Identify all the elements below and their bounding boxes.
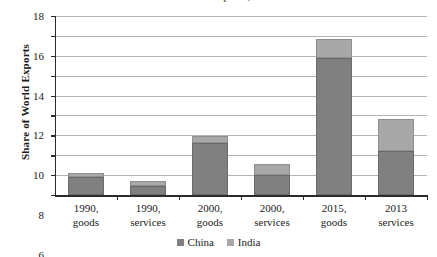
legend-item-india[interactable]: India — [227, 236, 261, 248]
chart-figure: Share of World Exports, 1990-2015 Share … — [0, 0, 437, 257]
x-tick-label: 1990, services — [117, 202, 179, 229]
bar-segment-india[interactable] — [378, 119, 414, 151]
x-tick-label: 1990, goods — [55, 202, 117, 229]
x-tick-mark — [303, 195, 304, 200]
bar-stack[interactable] — [68, 173, 104, 195]
x-tick-mark — [365, 195, 366, 200]
y-tick-mark: 4 — [51, 155, 56, 156]
gridline — [55, 175, 427, 176]
y-tick-mark: 8 — [51, 115, 56, 116]
legend-label: India — [238, 236, 261, 248]
bar-segment-india[interactable] — [316, 39, 352, 58]
bar-segment-india[interactable] — [68, 173, 104, 177]
bar-stack[interactable] — [254, 164, 290, 195]
y-tick-mark: 0 — [51, 195, 56, 196]
plot-area: 024681012141618 — [55, 16, 427, 195]
x-tick-mark — [117, 195, 118, 200]
square-swatch-icon — [177, 239, 184, 246]
legend-label: China — [188, 236, 214, 248]
y-tick-mark: 14 — [51, 56, 56, 57]
gridline — [55, 135, 427, 136]
bar-stack[interactable] — [316, 39, 352, 195]
y-tick-label: 6 — [39, 249, 45, 257]
legend-item-china[interactable]: China — [177, 236, 214, 248]
y-tick-label: 8 — [39, 209, 45, 221]
gridline — [55, 76, 427, 77]
bar-stack[interactable] — [192, 136, 228, 195]
gridline — [55, 56, 427, 57]
y-tick-label: 10 — [33, 169, 44, 181]
bar-segment-china[interactable] — [316, 58, 352, 195]
y-axis-line — [55, 16, 56, 195]
bar-stack[interactable] — [378, 119, 414, 195]
gridline — [55, 115, 427, 116]
bar-segment-china[interactable] — [192, 143, 228, 195]
bar-segment-china[interactable] — [254, 175, 290, 195]
y-tick-label: 14 — [33, 90, 44, 102]
gridline — [55, 155, 427, 156]
y-tick-mark: 6 — [51, 135, 56, 136]
square-swatch-icon — [227, 239, 234, 246]
bar-segment-india[interactable] — [254, 164, 290, 175]
x-tick-label: 2000, goods — [179, 202, 241, 229]
gridline — [55, 96, 427, 97]
y-axis-title: Share of World Exports — [19, 7, 31, 197]
bar-segment-china[interactable] — [68, 177, 104, 195]
y-tick-mark: 18 — [51, 16, 56, 17]
x-tick-label: 2015, goods — [303, 202, 365, 229]
x-tick-mark — [179, 195, 180, 200]
bar-segment-india[interactable] — [192, 136, 228, 143]
y-tick-label: 18 — [33, 10, 44, 22]
x-tick-label: 2013 services — [365, 202, 427, 229]
bar-segment-india[interactable] — [130, 181, 166, 186]
x-tick-mark — [241, 195, 242, 200]
y-tick-label: 16 — [33, 50, 44, 62]
y-tick-mark: 2 — [51, 175, 56, 176]
x-tick-mark — [427, 195, 428, 200]
chart-title-remnant: Share of World Exports, 1990-2015 — [0, 0, 437, 3]
gridline — [55, 16, 427, 17]
bar-segment-china[interactable] — [130, 186, 166, 195]
x-tick-label: 2000, services — [241, 202, 303, 229]
bar-segment-china[interactable] — [378, 151, 414, 195]
y-tick-mark: 16 — [51, 36, 56, 37]
bar-stack[interactable] — [130, 181, 166, 195]
y-tick-mark: 12 — [51, 76, 56, 77]
gridline — [55, 36, 427, 37]
y-tick-mark: 10 — [51, 96, 56, 97]
y-tick-label: 12 — [33, 129, 44, 141]
chart-legend: ChinaIndia — [0, 236, 437, 248]
